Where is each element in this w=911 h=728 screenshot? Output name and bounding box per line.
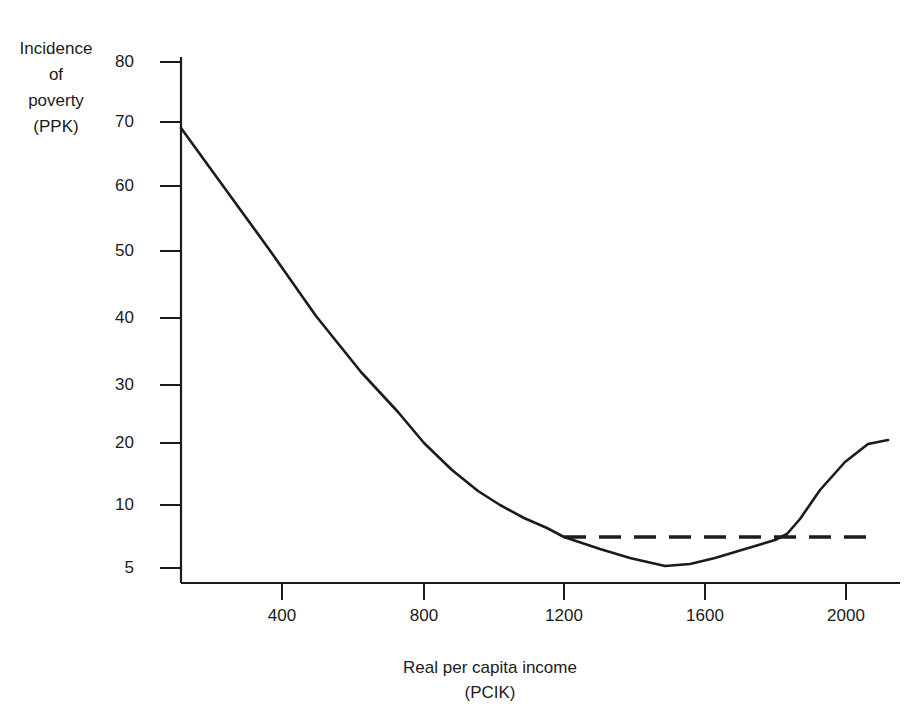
series-incidence-of-poverty: [181, 128, 888, 566]
x-axis-title-line-2: (PCIK): [300, 680, 680, 705]
y-tick-marks: [160, 62, 181, 568]
x-tick-marks: [282, 583, 846, 600]
plot-area: [0, 0, 911, 728]
x-axis-title-line-1: Real per capita income: [300, 655, 680, 680]
chart-figure: Incidence of poverty (PPK) 80 70 60 50 4…: [0, 0, 911, 728]
x-axis-title: Real per capita income (PCIK): [300, 655, 680, 705]
